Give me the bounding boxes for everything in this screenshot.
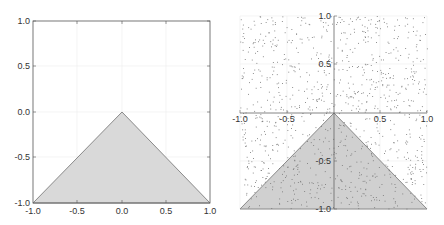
right-ytick-label: 1.0 [318, 11, 331, 21]
left-xtick-label: 0.5 [160, 206, 173, 216]
right-plot: 1.0 0.5 -0.5 -1.0 -1.0 -0.5 0.5 1.0 [232, 11, 433, 214]
left-triangle-region [33, 112, 210, 203]
left-xtick-label: 1.0 [204, 206, 217, 216]
right-xtick-label: 1.0 [421, 114, 434, 124]
right-ytick-label: 0.5 [318, 59, 331, 69]
right-ytick-label: -0.5 [315, 156, 331, 166]
left-plot: 1.0 0.5 0.0 -0.5 -1.0 -1.0 -0.5 0.0 0.5 … [14, 16, 216, 216]
right-xtick-label: -1.0 [232, 114, 248, 124]
right-xtick-label: -0.5 [279, 114, 295, 124]
left-xtick-label: -0.5 [69, 206, 85, 216]
left-ytick-label: 0.5 [17, 61, 30, 71]
right-xtick-label: 0.5 [374, 114, 387, 124]
left-ytick-label: 1.0 [17, 16, 30, 26]
left-ytick-label: -0.5 [14, 152, 30, 162]
figure: 1.0 0.5 0.0 -0.5 -1.0 -1.0 -0.5 0.0 0.5 … [0, 0, 444, 225]
left-xtick-label: 0.0 [116, 206, 129, 216]
left-ytick-label: 0.0 [17, 107, 30, 117]
left-xtick-label: -1.0 [25, 206, 41, 216]
right-ytick-label: -1.0 [315, 204, 331, 214]
